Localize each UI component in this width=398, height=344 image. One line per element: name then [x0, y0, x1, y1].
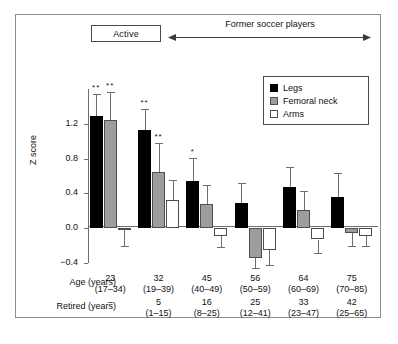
- y-tick-label: −0.4: [44, 257, 78, 267]
- table-cell-range: (12–41): [231, 308, 279, 319]
- y-tick: [84, 263, 88, 264]
- table-cell-value: 25: [231, 297, 279, 308]
- error-bar: [193, 158, 194, 181]
- active-group-label: Active: [113, 29, 139, 39]
- table-cell: 16(8–25): [183, 297, 231, 318]
- error-bar-cap: [189, 158, 197, 159]
- bar-femoral: [104, 120, 117, 228]
- table-cell-value: 33: [280, 297, 328, 308]
- bottom-data-table: Age (years)23(17–34)32(19–39)45(40–49)56…: [16, 273, 382, 319]
- bar-group: *: [186, 89, 227, 263]
- table-cell-range: (1–15): [135, 308, 183, 319]
- bar-legs: [235, 203, 248, 228]
- table-cell-value: 75: [328, 273, 376, 284]
- figure-frame: Active Former soccer players Z score Leg…: [15, 14, 381, 318]
- error-bar: [173, 180, 174, 200]
- table-cell: 25(12–41): [231, 297, 279, 318]
- table-cell-value: 5: [135, 297, 183, 308]
- error-bar: [124, 229, 125, 246]
- y-tick: [84, 228, 88, 229]
- bar-femoral: [200, 204, 213, 228]
- error-bar-cap: [314, 253, 322, 254]
- table-cell-value: 56: [231, 273, 279, 284]
- y-tick: [84, 124, 88, 125]
- error-bar-cap: [141, 109, 149, 110]
- table-cell-range: (23–47): [280, 308, 328, 319]
- error-bar-cap: [266, 265, 274, 266]
- table-cell-value: 42: [328, 297, 376, 308]
- error-bar-cap: [203, 185, 211, 186]
- bar-legs: [138, 130, 151, 228]
- bar-arms: [263, 228, 276, 250]
- error-bar-cap: [238, 183, 246, 184]
- bar-group: [283, 89, 324, 263]
- error-bar-cap: [93, 94, 101, 95]
- table-cell-value: –: [86, 297, 134, 308]
- table-cell: 32(19–39): [135, 273, 183, 294]
- former-players-arrow-icon: [168, 33, 371, 42]
- error-bar: [352, 233, 353, 246]
- bar-group: [235, 89, 276, 263]
- table-cell-range: (8–25): [183, 308, 231, 319]
- significance-marker: **: [150, 132, 168, 141]
- table-cell-value: 32: [135, 273, 183, 284]
- error-bar: [110, 92, 111, 120]
- bar-arms: [311, 228, 324, 239]
- table-cell-range: (70–85): [328, 284, 376, 295]
- plot-area: 1.20.80.40.0−0.4 *********: [88, 89, 378, 263]
- error-bar: [318, 240, 319, 254]
- table-cell-range: (40–49): [183, 284, 231, 295]
- error-bar: [338, 173, 339, 197]
- error-bar: [145, 109, 146, 130]
- error-bar-cap: [334, 173, 342, 174]
- y-tick-label: 0.8: [44, 153, 78, 163]
- table-cell: 5(1–15): [135, 297, 183, 318]
- bar-legs: [331, 197, 344, 228]
- error-bar: [221, 236, 222, 247]
- significance-marker: **: [101, 81, 119, 90]
- table-cell: 23(17–34): [86, 273, 134, 294]
- error-bar-cap: [286, 167, 294, 168]
- table-cell-range: (60–69): [280, 284, 328, 295]
- error-bar: [269, 250, 270, 265]
- error-bar-cap: [348, 246, 356, 247]
- table-cell: –: [86, 297, 134, 308]
- figure-root: Active Former soccer players Z score Leg…: [0, 0, 398, 344]
- bar-legs: [90, 116, 103, 228]
- significance-marker: *: [184, 147, 202, 156]
- error-bar-cap: [169, 180, 177, 181]
- y-tick: [84, 159, 88, 160]
- bar-group: ****: [138, 89, 179, 263]
- table-cell-value: 64: [280, 273, 328, 284]
- bar-group: [331, 89, 372, 263]
- error-bar: [304, 191, 305, 210]
- error-bar: [290, 167, 291, 187]
- error-bar: [241, 183, 242, 203]
- error-bar-cap: [300, 191, 308, 192]
- error-bar: [96, 94, 97, 116]
- table-cell-value: 16: [183, 297, 231, 308]
- error-bar-cap: [217, 247, 225, 248]
- table-cell-value: 45: [183, 273, 231, 284]
- y-tick-label: 0.0: [44, 222, 78, 232]
- error-bar-cap: [252, 268, 260, 269]
- error-bar: [207, 185, 208, 204]
- table-cell: 42(25–65): [328, 297, 376, 318]
- error-bar-cap: [107, 92, 115, 93]
- y-tick-label: 1.2: [44, 118, 78, 128]
- bar-legs: [283, 187, 296, 228]
- significance-marker: **: [136, 98, 154, 107]
- error-bar-cap: [155, 143, 163, 144]
- error-bar-cap: [362, 246, 370, 247]
- bar-femoral: [297, 210, 310, 228]
- bar-femoral: [249, 228, 262, 258]
- table-cell-range: (25–65): [328, 308, 376, 319]
- error-bar: [159, 143, 160, 172]
- table-cell: 56(50–59): [231, 273, 279, 294]
- bar-arms: [214, 228, 227, 236]
- bar-arms: [166, 200, 179, 228]
- active-group-box: Active: [91, 25, 161, 42]
- y-axis-line: [88, 89, 89, 263]
- table-cell-range: (50–59): [231, 284, 279, 295]
- former-players-label: Former soccer players: [166, 19, 374, 29]
